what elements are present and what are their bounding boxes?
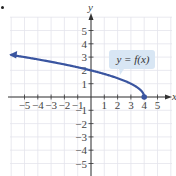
svg-text:2: 2 bbox=[82, 64, 88, 76]
x-axis-label: x bbox=[171, 90, 176, 102]
axes bbox=[8, 13, 172, 176]
svg-text:2: 2 bbox=[115, 99, 121, 111]
svg-text:−5: −5 bbox=[19, 99, 31, 111]
svg-text:5: 5 bbox=[82, 25, 88, 37]
function-graph: −5−4−3−2−112345−5−4−3−2−112345 y = f(x) … bbox=[0, 0, 176, 176]
svg-text:−3: −3 bbox=[45, 99, 57, 111]
svg-text:−4: −4 bbox=[75, 144, 87, 156]
svg-text:5: 5 bbox=[155, 99, 161, 111]
svg-text:4: 4 bbox=[82, 38, 88, 50]
svg-text:−2: −2 bbox=[75, 118, 87, 130]
svg-text:−5: −5 bbox=[75, 158, 87, 170]
svg-text:4: 4 bbox=[141, 99, 147, 111]
svg-text:−3: −3 bbox=[75, 131, 87, 143]
svg-text:−4: −4 bbox=[32, 99, 44, 111]
function-label-callout: y = f(x) bbox=[109, 50, 155, 75]
svg-text:3: 3 bbox=[82, 51, 88, 63]
y-axis-label: y bbox=[87, 1, 93, 13]
svg-text:3: 3 bbox=[128, 99, 134, 111]
svg-text:1: 1 bbox=[82, 78, 88, 90]
svg-text:−2: −2 bbox=[59, 99, 71, 111]
callout-text: y = f(x) bbox=[115, 53, 149, 66]
svg-text:−1: −1 bbox=[75, 104, 87, 116]
svg-text:1: 1 bbox=[102, 99, 108, 111]
